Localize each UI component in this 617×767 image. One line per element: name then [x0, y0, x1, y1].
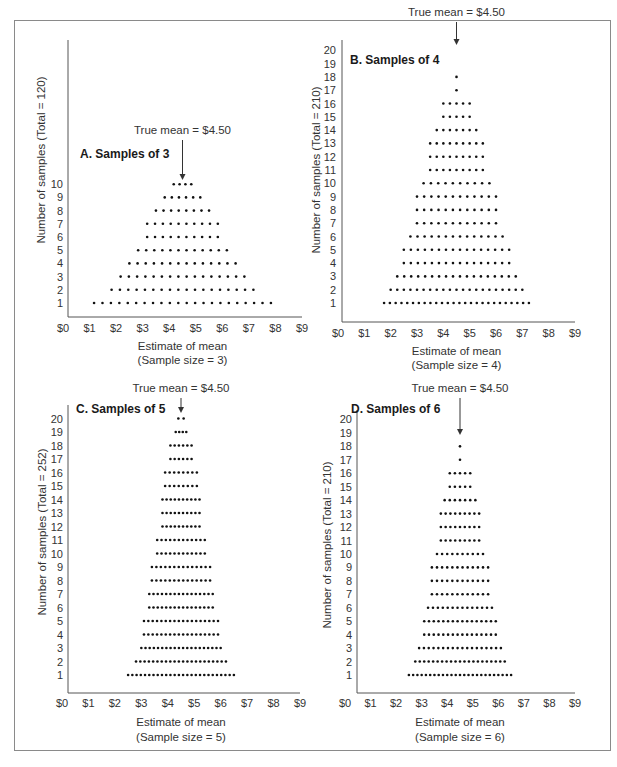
sample-dot: [186, 444, 189, 447]
sample-dot: [185, 196, 188, 199]
x-tick-label: $3: [416, 697, 428, 709]
sample-dot: [186, 660, 189, 663]
sample-dot: [490, 620, 493, 623]
x-tick-label: $2: [110, 322, 122, 334]
sample-dot: [466, 566, 469, 569]
sample-dot: [110, 302, 113, 305]
sample-dot: [219, 289, 222, 292]
y-tick-label: 20: [324, 44, 336, 56]
sample-dot: [403, 288, 406, 291]
true-mean-annotation: True mean = $4.50: [134, 124, 231, 136]
sample-dot: [437, 222, 440, 225]
sample-dot: [449, 129, 452, 132]
sample-dot: [204, 539, 207, 542]
y-tick-label: 5: [330, 244, 336, 256]
sample-dot: [178, 525, 181, 528]
sample-dot: [151, 633, 154, 636]
sample-dot: [155, 579, 158, 582]
sample-dot: [490, 633, 493, 636]
sample-dot: [423, 209, 426, 212]
sample-dot: [168, 485, 171, 488]
sample-dot: [191, 552, 194, 555]
sample-dot: [448, 499, 451, 502]
sample-dot: [185, 275, 188, 278]
sample-dot: [208, 209, 211, 212]
sample-dot: [160, 539, 163, 542]
sample-dot: [204, 620, 207, 623]
sample-dot: [219, 302, 222, 305]
sample-dot: [494, 249, 497, 252]
sample-dot: [459, 459, 462, 462]
sample-dot: [442, 288, 445, 291]
sample-dot: [436, 580, 439, 583]
sample-dot: [389, 288, 392, 291]
sample-dot: [495, 647, 498, 650]
sample-dot: [186, 458, 189, 461]
y-tick-label: 19: [51, 426, 63, 438]
sample-dot: [477, 660, 480, 663]
sample-dot: [463, 674, 466, 677]
sample-dot: [429, 302, 432, 305]
sample-dot: [451, 606, 454, 609]
sample-dot: [165, 552, 168, 555]
sample-dot: [456, 553, 459, 556]
sample-dot: [409, 288, 412, 291]
sample-dot: [199, 196, 202, 199]
sample-dot: [152, 275, 155, 278]
true-mean-annotation: True mean = $4.50: [411, 382, 508, 394]
sample-dot: [494, 262, 497, 265]
sample-dot: [485, 633, 488, 636]
sample-dot: [212, 660, 215, 663]
sample-dot: [458, 302, 461, 305]
sample-dot: [408, 674, 411, 677]
x-axis-sublabel: (Sample size = 5): [136, 731, 226, 743]
sample-dot: [178, 431, 181, 434]
y-tick-label: 14: [324, 124, 336, 136]
sample-dot: [173, 660, 176, 663]
sample-dot: [441, 593, 444, 596]
sample-dot: [416, 235, 419, 238]
sample-dot: [454, 472, 457, 475]
sample-dot: [207, 647, 210, 650]
sample-dot: [173, 444, 176, 447]
sample-dot: [478, 512, 481, 515]
sample-dot: [450, 674, 453, 677]
sample-dot: [394, 302, 397, 305]
sample-dot: [473, 182, 476, 185]
sample-dot: [208, 633, 211, 636]
x-tick-label: $0: [56, 697, 68, 709]
sample-dot: [199, 606, 202, 609]
sample-dot: [253, 302, 256, 305]
sample-dot: [177, 566, 180, 569]
sample-dot: [471, 580, 474, 583]
sample-dot: [161, 647, 164, 650]
sample-dot: [198, 498, 201, 501]
sample-dot: [431, 566, 434, 569]
sample-dot: [466, 647, 469, 650]
sample-dot: [468, 116, 471, 119]
sample-dot: [461, 593, 464, 596]
x-axis-label: Estimate of mean: [138, 340, 227, 352]
sample-dot: [202, 262, 205, 265]
sample-dot: [499, 660, 502, 663]
arrowhead-icon: [454, 39, 460, 45]
sample-dot: [171, 196, 174, 199]
sample-dot: [475, 129, 478, 132]
sample-dot: [441, 302, 444, 305]
sample-dot: [475, 155, 478, 158]
sample-dot: [414, 660, 417, 663]
sample-dot: [473, 235, 476, 238]
sample-dot: [471, 633, 474, 636]
sample-dot: [435, 302, 438, 305]
sample-dot: [169, 458, 172, 461]
sample-dot: [156, 552, 159, 555]
sample-dot: [164, 485, 167, 488]
sample-dot: [169, 525, 172, 528]
sample-dot: [427, 647, 430, 650]
y-tick-label: 18: [324, 71, 336, 83]
sample-dot: [506, 674, 509, 677]
sample-dot: [190, 444, 193, 447]
sample-dot: [152, 289, 155, 292]
sample-dot: [161, 674, 164, 677]
sample-dot: [225, 660, 228, 663]
